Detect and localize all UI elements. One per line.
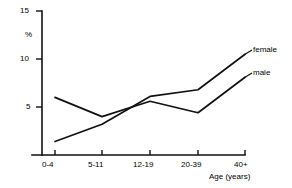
x-tick-label-5-11: 5-11: [88, 160, 103, 169]
x-axis-title: Age (years): [209, 172, 250, 181]
leader-line-male: [245, 73, 252, 77]
chart-container: 15 10 5 % 0-4 5-11 12-19 20-39 40+ Age (…: [0, 0, 292, 188]
leader-line-female: [245, 50, 252, 54]
y-tick-label-15: 15: [20, 6, 29, 15]
x-tick-label-12-19: 12-19: [133, 160, 153, 169]
x-tick-label-20-39: 20-39: [181, 160, 201, 169]
series-label-female: female: [253, 45, 277, 54]
y-axis-label: %: [25, 30, 32, 39]
x-tick-label-0-4: 0-4: [42, 160, 54, 169]
y-tick-label-5: 5: [26, 102, 30, 111]
y-tick-label-10: 10: [20, 54, 29, 63]
x-tick-label-40-plus: 40+: [234, 160, 248, 169]
series-label-male: male: [253, 68, 270, 77]
